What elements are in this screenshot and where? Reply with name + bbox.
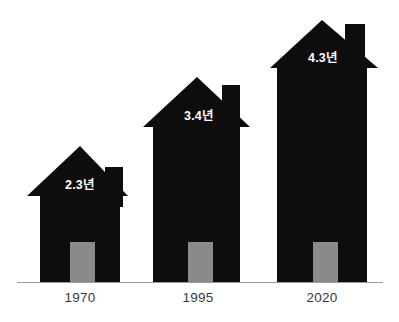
- tick-label-1970: 1970: [64, 290, 95, 305]
- door-icon-2020: [313, 242, 338, 282]
- house-icon-1970[interactable]: 2.3년: [27, 146, 128, 282]
- tick-label-2020: 2020: [306, 290, 337, 305]
- house-icon-2020[interactable]: 4.3년: [270, 20, 378, 282]
- house-icon-1995[interactable]: 3.4년: [143, 77, 250, 282]
- value-label-1995: 3.4년: [184, 109, 214, 123]
- door-icon-1995: [188, 242, 213, 282]
- chart-canvas: 2.3년 3.4년 4.3년 1970 1995 2020: [0, 0, 399, 322]
- house-pictograph-chart: 2.3년 3.4년 4.3년 1970 1995 2020: [0, 0, 399, 322]
- tick-label-1995: 1995: [182, 290, 213, 305]
- value-label-2020: 4.3년: [308, 51, 338, 65]
- value-label-1970: 2.3년: [65, 178, 95, 192]
- door-icon-1970: [70, 242, 95, 282]
